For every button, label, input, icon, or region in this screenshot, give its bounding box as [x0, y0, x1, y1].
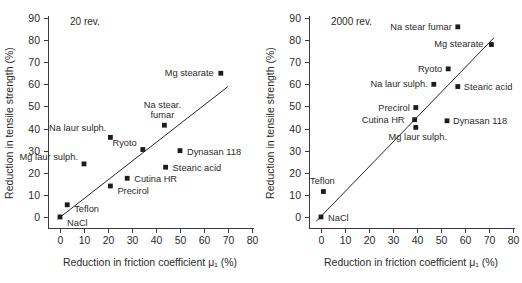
x-tick-label: 10 [79, 234, 91, 246]
data-point-marker [125, 176, 130, 181]
y-tick-label: 60 [28, 78, 40, 90]
data-point-label: Teflon [310, 176, 335, 186]
data-point-marker [319, 215, 324, 220]
x-tick-label: 30 [388, 234, 400, 246]
data-point-marker [412, 117, 417, 122]
data-point-marker [489, 42, 494, 47]
x-axis-title: Reduction in friction coefficient μ₁ (%) [324, 256, 498, 268]
data-point-label: Mg laur sulph. [20, 152, 78, 162]
x-tick-label: 0 [319, 234, 325, 246]
data-point-label: fumar [151, 110, 175, 120]
y-axis-title: Reduction in tensile strength (%) [264, 47, 276, 199]
data-point-label: NaCl [328, 213, 349, 223]
chart-panel-20-rev: 01020304050607080900102030405060708020 r… [0, 0, 261, 283]
data-point-label: Na stear. [144, 100, 181, 110]
y-axis: 0102030405060708090 [289, 12, 309, 228]
data-point-marker [321, 189, 326, 194]
x-tick-label: 50 [436, 234, 448, 246]
data-point-marker [140, 147, 145, 152]
data-point-label: NaCl [67, 218, 88, 228]
data-point-label: Stearic acid [173, 163, 222, 173]
y-tick-label: 90 [289, 12, 301, 24]
x-tick-label: 80 [508, 234, 520, 246]
data-point-label: Na laur sulph. [370, 79, 427, 89]
y-tick-label: 80 [289, 34, 301, 46]
y-tick-label: 50 [289, 100, 301, 112]
data-point-marker [455, 24, 460, 29]
data-point-marker [413, 125, 418, 130]
x-axis-title: Reduction in friction coefficient μ₁ (%) [63, 256, 237, 268]
y-tick-label: 70 [28, 56, 40, 68]
data-point-label: Na stear fumar [390, 22, 451, 32]
y-tick-label: 80 [28, 34, 40, 46]
y-axis: 0102030405060708090 [28, 12, 48, 228]
scatter-plot-figure: 01020304050607080900102030405060708020 r… [0, 0, 522, 283]
y-tick-label: 20 [289, 167, 301, 179]
data-point-marker [82, 161, 87, 166]
chart-svg: 01020304050607080900102030405060708020 r… [0, 0, 261, 283]
data-point-label: Precirol [117, 186, 149, 196]
data-point-marker [178, 148, 183, 153]
data-point-label: Mg laur sulph. [389, 132, 447, 142]
data-point-label: Stearic acid [464, 82, 513, 92]
y-tick-label: 0 [34, 211, 40, 223]
data-point-label: Precirol [378, 103, 410, 113]
x-tick-label: 40 [151, 234, 163, 246]
y-tick-label: 30 [289, 145, 301, 157]
data-point-label: Mg stearate [434, 39, 483, 49]
data-point-marker [413, 105, 418, 110]
panel-title: 2000 rev. [331, 16, 372, 27]
x-tick-label: 70 [223, 234, 235, 246]
y-tick-label: 50 [28, 100, 40, 112]
data-point-marker [162, 123, 167, 128]
x-tick-label: 70 [484, 234, 496, 246]
chart-svg: 0102030405060708090010203040506070802000… [261, 0, 522, 283]
data-point-marker [65, 202, 70, 207]
data-point-label: Mg stearate [165, 68, 214, 78]
x-tick-label: 60 [199, 234, 211, 246]
data-point-group: NaClTeflonMg laur sulph.PrecirolNa laur … [20, 68, 242, 228]
data-point-label: Na laur sulph. [49, 123, 106, 133]
x-axis: 01020304050607080 [49, 229, 259, 247]
x-tick-label: 20 [364, 234, 376, 246]
x-tick-label: 20 [103, 234, 115, 246]
y-tick-label: 90 [28, 12, 40, 24]
x-tick-label: 0 [58, 234, 64, 246]
y-tick-label: 0 [295, 211, 301, 223]
data-point-label: Cutina HR [134, 174, 177, 184]
x-tick-label: 50 [175, 234, 187, 246]
data-point-marker [445, 118, 450, 123]
data-point-label: Dynasan 118 [453, 116, 507, 126]
data-point-marker [455, 84, 460, 89]
y-tick-label: 10 [28, 189, 40, 201]
y-tick-label: 20 [28, 167, 40, 179]
data-point-group: NaClTeflonCutina HRMg laur sulph.Preciro… [310, 22, 512, 223]
data-point-label: Teflon [74, 204, 99, 214]
panel-title: 20 rev. [70, 16, 100, 27]
data-point-label: Ryoto [418, 64, 442, 74]
x-tick-label: 40 [412, 234, 424, 246]
chart-panel-2000-rev: 0102030405060708090010203040506070802000… [261, 0, 522, 283]
x-tick-label: 30 [127, 234, 139, 246]
data-point-marker [431, 82, 436, 87]
data-point-marker [58, 215, 63, 220]
x-tick-label: 10 [340, 234, 352, 246]
x-tick-label: 80 [247, 234, 259, 246]
data-point-label: Ryoto [113, 138, 137, 148]
data-point-marker [446, 66, 451, 71]
y-axis-title: Reduction in tensile strength (%) [3, 47, 15, 199]
data-point-label: Cutina HR [362, 115, 405, 125]
y-tick-label: 60 [289, 78, 301, 90]
y-tick-label: 70 [289, 56, 301, 68]
y-tick-label: 10 [289, 189, 301, 201]
data-point-label: Dynasan 118 [187, 147, 241, 157]
trend-line [316, 38, 494, 221]
x-tick-label: 60 [460, 234, 472, 246]
data-point-marker [218, 71, 223, 76]
y-tick-label: 40 [289, 123, 301, 135]
data-point-marker [163, 165, 168, 170]
data-point-marker [108, 184, 113, 189]
x-axis: 01020304050607080 [310, 229, 520, 247]
y-tick-label: 40 [28, 123, 40, 135]
